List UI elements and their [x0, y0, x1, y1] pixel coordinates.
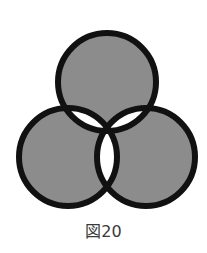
xor-fill-region — [19, 33, 195, 206]
venn-diagram — [0, 0, 207, 215]
figure-caption: 図20 — [0, 218, 207, 242]
